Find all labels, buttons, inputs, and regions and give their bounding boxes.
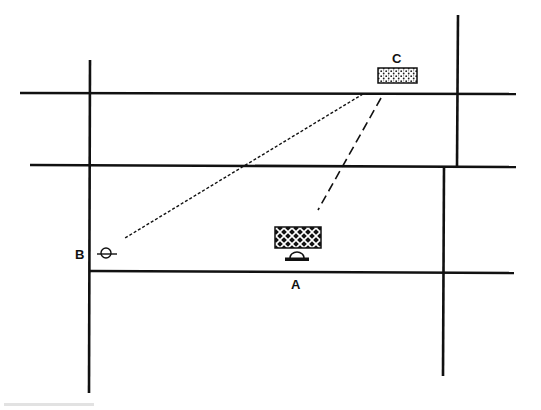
- road-h1: [20, 93, 516, 94]
- label-b: B: [75, 247, 84, 262]
- road-v-right-upper: [457, 15, 458, 166]
- road-h2: [30, 165, 516, 167]
- road-h3: [90, 271, 514, 273]
- roads: [20, 15, 516, 393]
- label-a: A: [291, 277, 301, 292]
- street-diagram: C A B: [0, 0, 541, 410]
- observer-marker-b-icon: [97, 248, 117, 258]
- building-a: [275, 227, 321, 248]
- cropped-caption: [4, 403, 94, 406]
- label-c: C: [392, 51, 402, 66]
- road-v-right-lower: [443, 167, 444, 376]
- observer-marker-a-icon: [285, 252, 309, 261]
- building-c: [378, 68, 417, 83]
- road-v-left: [89, 60, 90, 393]
